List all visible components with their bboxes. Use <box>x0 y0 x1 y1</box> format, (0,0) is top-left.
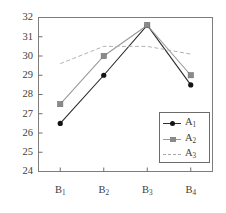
y-tick-label: 24 <box>11 166 33 177</box>
y-tick-label: 31 <box>11 32 33 43</box>
data-point-a1 <box>188 82 193 87</box>
y-tick-label: 29 <box>11 70 33 81</box>
y-tick-label: 26 <box>11 128 33 139</box>
legend-swatch-a1 <box>160 117 184 129</box>
y-axis-ticks <box>39 37 43 153</box>
y-tick-label: 32 <box>11 12 33 23</box>
x-tick-label: B1 <box>43 184 77 199</box>
data-point-a2 <box>58 102 63 107</box>
data-point-a1 <box>58 121 63 126</box>
legend-swatch-a3 <box>160 148 184 160</box>
legend-label-a3: A3 <box>185 147 196 162</box>
legend-swatch-a2 <box>160 133 184 145</box>
x-tick-label: B4 <box>174 184 208 199</box>
legend-item-a3: A3 <box>160 147 211 161</box>
chart-legend: A1 A2 A3 <box>159 112 210 163</box>
y-tick-label: 28 <box>11 89 33 100</box>
data-point-a2 <box>145 23 150 28</box>
y-tick-label: 30 <box>11 51 33 62</box>
x-tick-label: B2 <box>87 184 121 199</box>
series-lines <box>60 25 191 123</box>
legend-item-a1: A1 <box>160 116 211 130</box>
y-tick-label: 27 <box>11 109 33 120</box>
series-markers <box>58 23 194 126</box>
x-axis-ticks <box>60 168 191 172</box>
data-point-a2 <box>188 73 193 78</box>
series-line-a2 <box>60 25 191 104</box>
series-line-a3 <box>60 46 191 63</box>
chart-figure: 242526272829303132 B1B2B3B4 A1 A2 A3 <box>0 0 226 213</box>
chart-plot-area <box>0 0 226 213</box>
y-tick-label: 25 <box>11 147 33 158</box>
legend-item-a2: A2 <box>160 132 211 146</box>
x-tick-label: B3 <box>130 184 164 199</box>
legend-label-a1: A1 <box>185 116 196 131</box>
data-point-a2 <box>101 53 106 58</box>
legend-label-a2: A2 <box>185 132 196 147</box>
data-point-a1 <box>101 73 106 78</box>
